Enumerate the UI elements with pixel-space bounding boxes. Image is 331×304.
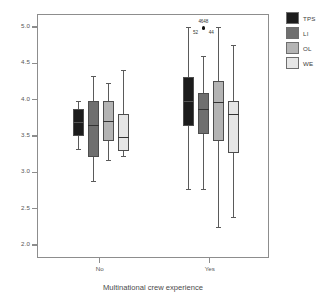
x-tick-label: Yes (205, 265, 215, 272)
whisker-cap-lower (231, 217, 236, 218)
box-plot-li-yes: 46485244 (198, 15, 209, 259)
x-tick-label: No (96, 265, 104, 272)
legend-label: TPS (303, 15, 316, 22)
x-tick-mark (99, 258, 100, 263)
whisker-lower (93, 157, 94, 181)
box-layer: 46485244 (38, 15, 268, 257)
y-tick-label: 3.0 (21, 167, 30, 174)
whisker-cap-upper (216, 27, 221, 28)
whisker-cap-lower (121, 156, 126, 157)
whisker-upper (78, 101, 79, 108)
median-line (198, 109, 209, 110)
whisker-cap-upper (91, 76, 96, 77)
box-rect (118, 114, 129, 151)
legend-item-li[interactable]: LI (286, 26, 330, 40)
median-line (228, 114, 239, 115)
y-tick-label: 2.0 (21, 240, 30, 247)
box-plot-we-yes (228, 15, 239, 259)
whisker-lower (188, 126, 189, 189)
median-line (118, 137, 129, 138)
box-rect (88, 101, 99, 157)
median-line (88, 125, 99, 126)
whisker-cap-lower (186, 189, 191, 190)
whisker-cap-upper (231, 45, 236, 46)
box-plot-ol-no (103, 15, 114, 259)
x-axis-title: Multinational crew experience (37, 283, 269, 292)
whisker-upper (123, 70, 124, 114)
legend-item-ol[interactable]: OL (286, 41, 330, 55)
whisker-upper (188, 27, 189, 78)
y-tick-label: 3.5 (21, 131, 30, 138)
median-line (103, 121, 114, 122)
whisker-cap-lower (106, 160, 111, 161)
legend-swatch-we (286, 57, 299, 69)
box-rect (213, 81, 224, 141)
whisker-cap-lower (216, 227, 221, 228)
whisker-lower (233, 153, 234, 217)
whisker-lower (203, 134, 204, 189)
whisker-cap-upper (76, 101, 81, 102)
box-rect (228, 101, 239, 153)
median-line (183, 101, 194, 102)
box-rect (198, 93, 209, 134)
legend-label: LI (303, 30, 309, 37)
whisker-cap-upper (186, 27, 191, 28)
legend-swatch-ol (286, 42, 299, 54)
median-line (73, 122, 84, 123)
y-tick-label: 2.5 (21, 204, 30, 211)
whisker-lower (108, 141, 109, 161)
x-tick-mark (209, 258, 210, 263)
box-plot-we-no (118, 15, 129, 259)
legend-label: WE (303, 60, 313, 67)
whisker-lower (78, 136, 79, 150)
y-tick-label: 5.0 (21, 22, 30, 29)
box-plot-ol-yes (213, 15, 224, 259)
box-plot-tps-yes (183, 15, 194, 259)
legend: TPSLIOLWE (286, 11, 330, 71)
outlier-point (202, 26, 206, 30)
whisker-cap-lower (91, 181, 96, 182)
box-plot-li-no (88, 15, 99, 259)
outlier-label-left: 52 (193, 30, 198, 35)
outlier-label-top: 4648 (198, 19, 208, 24)
whisker-cap-upper (106, 83, 111, 84)
box-plot-tps-no (73, 15, 84, 259)
legend-swatch-li (286, 27, 299, 39)
y-tick-label: 4.5 (21, 58, 30, 65)
whisker-cap-lower (76, 149, 81, 150)
whisker-cap-upper (201, 56, 206, 57)
y-axis: 2.02.53.03.54.04.55.0 (0, 0, 37, 304)
whisker-lower (218, 141, 219, 227)
chart-root: 2.02.53.03.54.04.55.0 46485244 NoYes Mul… (0, 0, 331, 304)
whisker-upper (108, 83, 109, 102)
y-tick-label: 4.0 (21, 95, 30, 102)
legend-item-tps[interactable]: TPS (286, 11, 330, 25)
median-line (213, 102, 224, 103)
box-rect (183, 77, 194, 126)
whisker-cap-upper (121, 70, 126, 71)
whisker-upper (218, 27, 219, 81)
whisker-upper (93, 76, 94, 101)
whisker-upper (233, 45, 234, 102)
plot-area: 46485244 (37, 14, 269, 258)
whisker-upper (203, 56, 204, 94)
whisker-cap-lower (201, 189, 206, 190)
legend-swatch-tps (286, 12, 299, 24)
legend-item-we[interactable]: WE (286, 56, 330, 70)
legend-label: OL (303, 45, 312, 52)
